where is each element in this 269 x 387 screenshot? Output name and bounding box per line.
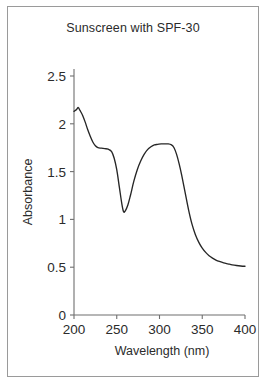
x-axis-ticks: [74, 315, 245, 319]
y-tick-label: 1.5: [47, 165, 66, 180]
y-tick-label: 0.5: [47, 260, 66, 275]
x-tick-label: 400: [234, 322, 257, 337]
x-tick-label: 300: [148, 322, 171, 337]
figure-frame: Sunscreen with SPF-30 00.511.522.5 Absor…: [7, 6, 259, 377]
x-tick-label: 250: [105, 322, 128, 337]
absorbance-curve: [74, 108, 245, 267]
y-axis-ticks: [70, 76, 74, 315]
y-axis-tick-labels: 00.511.522.5: [47, 69, 66, 323]
y-tick-label: 1: [58, 212, 66, 227]
x-axis-tick-labels: 200250300350400: [63, 322, 257, 337]
x-axis-group: 200250300350400 Wavelength (nm): [63, 315, 257, 358]
absorbance-spectrum-chart: 00.511.522.5 Absorbance 200250300350400 …: [8, 7, 260, 378]
x-axis-title: Wavelength (nm): [115, 344, 210, 358]
x-tick-label: 350: [191, 322, 214, 337]
y-axis-title: Absorbance: [21, 159, 35, 226]
y-axis-group: 00.511.522.5 Absorbance: [21, 69, 74, 323]
y-tick-label: 2.5: [47, 69, 66, 84]
y-tick-label: 0: [58, 308, 66, 323]
x-tick-label: 200: [63, 322, 86, 337]
y-tick-label: 2: [58, 117, 66, 132]
